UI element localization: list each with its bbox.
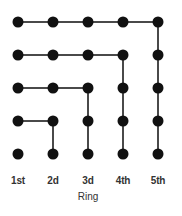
column-label-2: 2d xyxy=(47,175,58,187)
node-dot xyxy=(83,149,94,160)
node-dot xyxy=(83,17,94,28)
node-dot xyxy=(13,116,24,127)
node-dot xyxy=(118,50,129,61)
node-dot xyxy=(48,116,59,127)
node-dot xyxy=(83,50,94,61)
column-label-5: 5th xyxy=(151,175,165,187)
node-dot xyxy=(153,83,164,94)
column-label-4: 4th xyxy=(116,175,130,187)
node-dot xyxy=(48,50,59,61)
node-dot xyxy=(83,116,94,127)
node-dot xyxy=(153,116,164,127)
node-dot xyxy=(118,83,129,94)
node-dot xyxy=(13,17,24,28)
node-dot xyxy=(48,83,59,94)
ring-lattice-figure: 1st2d3d4th5th Ring xyxy=(0,0,182,216)
node-dot xyxy=(48,149,59,160)
node-dot xyxy=(48,17,59,28)
axis-title: Ring xyxy=(78,191,99,203)
node-dot xyxy=(118,17,129,28)
node-dot xyxy=(83,83,94,94)
column-label-3: 3d xyxy=(82,175,93,187)
node-dot xyxy=(153,149,164,160)
node-dot xyxy=(118,116,129,127)
node-dot xyxy=(153,50,164,61)
column-label-1: 1st xyxy=(11,175,25,187)
node-dot xyxy=(13,50,24,61)
node-dot xyxy=(13,149,24,160)
node-dot xyxy=(13,83,24,94)
node-dot xyxy=(118,149,129,160)
node-dot xyxy=(153,17,164,28)
